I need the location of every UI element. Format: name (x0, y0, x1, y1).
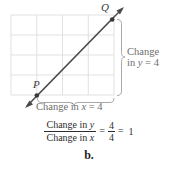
denominator-variable: x (90, 132, 94, 143)
part-label: b. (0, 148, 178, 163)
point-p-dot (35, 93, 40, 98)
change-in-y-prefix: in (127, 57, 138, 68)
figure-graphics (0, 0, 178, 169)
slope-numerator: Change in y (44, 119, 96, 132)
point-label-q: Q (101, 2, 109, 13)
equals-sign-1: = (96, 126, 108, 136)
point-q-dot (110, 17, 115, 22)
numeric-numerator: 4 (108, 120, 115, 132)
graph-line (25, 7, 124, 108)
change-in-y-suffix: = 4 (142, 57, 158, 68)
slope-ratio-fraction: Change in y Change in x (44, 119, 96, 144)
change-in-y-label: Change in y = 4 (127, 46, 159, 68)
point-label-p: P (33, 79, 40, 90)
change-in-x-suffix: = 4 (86, 101, 102, 112)
change-in-y-line1: Change (127, 46, 159, 57)
slope-equation: Change in y Change in x = 4 4 = 1 (0, 119, 178, 144)
slope-figure: P Q Change in y = 4 Change in x = 4 Chan… (0, 0, 178, 169)
numeric-fraction: 4 4 (108, 120, 115, 143)
numeric-denominator: 4 (108, 132, 115, 143)
change-in-x-prefix: Change in (36, 101, 82, 112)
slope-denominator: Change in x (44, 132, 96, 144)
change-in-y-line2: in y = 4 (127, 57, 159, 68)
vertical-brace (118, 20, 126, 96)
numerator-text: Change in (46, 119, 89, 130)
change-in-x-label: Change in x = 4 (36, 101, 103, 112)
coordinate-grid (11, 15, 114, 95)
equals-sign-2: = (115, 126, 127, 136)
numerator-variable: y (90, 119, 94, 130)
denominator-text: Change in (46, 132, 89, 143)
slope-result: 1 (127, 126, 134, 137)
